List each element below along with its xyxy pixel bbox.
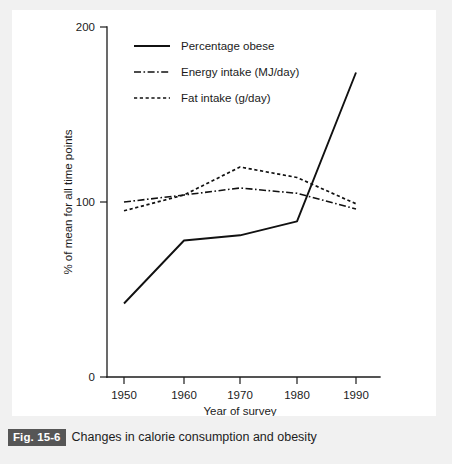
y-axis-ticks — [100, 27, 107, 377]
x-tick-label-1990: 1990 — [343, 389, 369, 401]
figure-container: 200 100 0 1950 1960 1970 1980 1990 Year … — [0, 0, 452, 464]
x-axis-ticks — [124, 377, 356, 384]
chart-panel: 200 100 0 1950 1960 1970 1980 1990 Year … — [12, 10, 436, 416]
legend-label-percentage-obese: Percentage obese — [181, 40, 274, 52]
series-line-energy-intake — [124, 188, 356, 209]
x-axis-title: Year of survey — [203, 405, 276, 416]
legend-label-energy-intake: Energy intake (MJ/day) — [181, 66, 299, 78]
x-tick-label-1950: 1950 — [111, 389, 137, 401]
y-tick-label-0: 0 — [89, 371, 95, 383]
legend-label-fat-intake: Fat intake (g/day) — [181, 92, 271, 104]
y-tick-label-100: 100 — [76, 196, 95, 208]
figure-caption-text: Changes in calorie consumption and obesi… — [72, 430, 317, 444]
x-tick-label-1980: 1980 — [284, 389, 310, 401]
caption-row: Fig. 15-6 Changes in calorie consumption… — [8, 429, 317, 446]
line-chart: 200 100 0 1950 1960 1970 1980 1990 Year … — [12, 10, 436, 416]
x-tick-label-1970: 1970 — [227, 389, 253, 401]
x-tick-label-1960: 1960 — [171, 389, 197, 401]
y-axis-title: % of mean for all time points — [62, 129, 74, 274]
series-line-fat-intake — [124, 167, 356, 211]
y-tick-label-200: 200 — [76, 21, 95, 33]
figure-caption-bar: Fig. 15-6 Changes in calorie consumption… — [0, 424, 452, 464]
chart-legend: Percentage obese Energy intake (MJ/day) … — [134, 40, 299, 104]
figure-number-badge: Fig. 15-6 — [8, 429, 66, 446]
